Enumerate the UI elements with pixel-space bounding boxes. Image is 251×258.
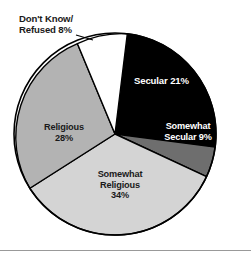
pie-label-religious: Religious 28% xyxy=(27,122,101,143)
bottom-divider xyxy=(0,250,251,251)
pie-label-somewhat-secular: Somewhat Secular 9% xyxy=(152,121,224,142)
pie-chart-figure: Don't Know/ Refused 8% Secular 21% Somew… xyxy=(0,0,251,258)
pie-label-secular: Secular 21% xyxy=(134,76,214,87)
pie-label-dont-know: Don't Know/ Refused 8% xyxy=(19,13,73,36)
pie-label-somewhat-religious: Somewhat Religious 34% xyxy=(77,169,163,201)
